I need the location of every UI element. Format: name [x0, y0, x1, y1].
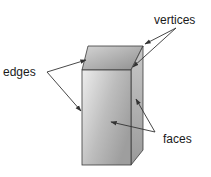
edges-arrows	[47, 60, 86, 111]
edges-label: edges	[3, 65, 36, 79]
rectangular-prism-diagram: vertices edges faces	[0, 0, 211, 177]
vertices-label: vertices	[154, 13, 195, 27]
edges-arrow-1	[47, 60, 86, 72]
edges-arrow-2	[47, 72, 81, 111]
front-face	[82, 70, 131, 165]
faces-label: faces	[163, 132, 192, 146]
